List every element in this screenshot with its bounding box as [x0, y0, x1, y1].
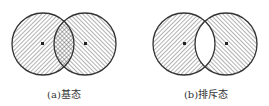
caption-b: (b)排斥态: [184, 86, 228, 101]
nucleus-dot: [183, 42, 186, 45]
figure-a-ground-state: [12, 13, 116, 75]
nucleus-dot: [41, 42, 44, 45]
nucleus-dot: [84, 42, 87, 45]
nucleus-dot: [225, 42, 228, 45]
caption-a: (a)基态: [47, 86, 81, 101]
figure-b-repulsive-state: [153, 13, 257, 75]
orbital-overlap-diagram: [0, 0, 269, 106]
